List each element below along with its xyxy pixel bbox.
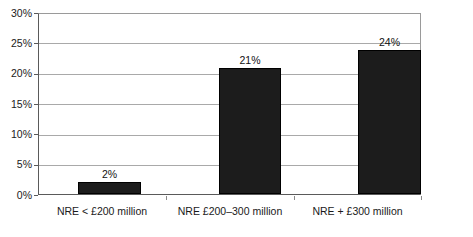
bar-nre-200-300m [219,68,281,194]
bar-value-label: 21% [219,55,281,66]
y-axis-tick-label: 5% [0,159,32,170]
x-axis-tick-mark [294,196,295,200]
y-axis-tick-label: 15% [0,99,32,110]
y-axis-tick-label: 25% [0,38,32,49]
x-axis-category-label: NRE £200–300 million [166,206,294,217]
bar-value-label: 2% [78,169,141,180]
y-axis-tick-label: 20% [0,68,32,79]
bar-nre-under-200m [78,182,141,194]
y-axis-tick-label: 0% [0,190,32,201]
bar-value-label: 24% [358,37,421,48]
y-axis-tick-label: 10% [0,129,32,140]
x-axis-tick-mark [166,196,167,200]
bar-nre-plus-300m [358,50,421,194]
x-axis-tick-mark [421,196,422,200]
x-axis-category-label: NRE + £300 million [294,206,421,217]
x-axis-category-label: NRE < £200 million [38,206,166,217]
y-axis-tick-mark [34,195,38,196]
bar-chart: 30% 25% 20% 15% 10% 5% 0% 2% 21% 24% NRE… [0,0,473,237]
y-axis-tick-label: 30% [0,8,32,19]
